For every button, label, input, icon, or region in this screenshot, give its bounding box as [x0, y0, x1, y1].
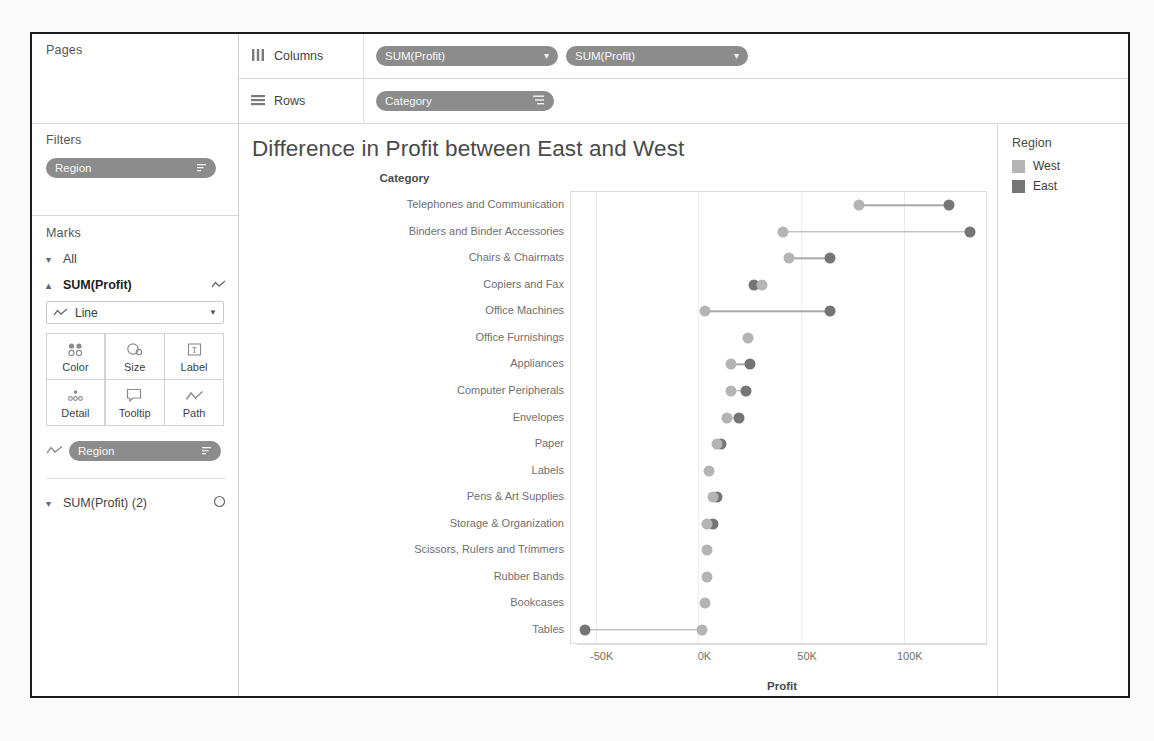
chevron-down-icon[interactable]: ▾	[46, 254, 56, 265]
path-button[interactable]: Path	[164, 379, 224, 426]
svg-text:T: T	[192, 346, 197, 355]
tooltip-button-label: Tooltip	[119, 407, 151, 419]
marks-card2-header[interactable]: ▾ SUM(Profit) (2)	[46, 495, 226, 511]
label-button[interactable]: T Label	[164, 333, 224, 380]
rows-label: Rows	[274, 94, 305, 108]
legend-item[interactable]: East	[1012, 179, 1128, 193]
data-point-east[interactable]	[734, 412, 745, 423]
category-label: Scissors, Rulers and Trimmers	[414, 542, 564, 556]
data-point-east[interactable]	[964, 226, 975, 237]
x-axis-title: Profit	[577, 680, 987, 692]
chevron-up-icon[interactable]: ▴	[46, 280, 56, 291]
data-point-west[interactable]	[853, 200, 864, 211]
mark-type-dropdown[interactable]: Line ▼	[46, 301, 224, 324]
marks-card1-header[interactable]: ▴ SUM(Profit)	[46, 278, 226, 292]
plot-frame: Telephones and CommunicationBinders and …	[232, 191, 987, 644]
detail-icon	[66, 386, 85, 405]
line-icon	[53, 306, 68, 320]
tooltip-button[interactable]: Tooltip	[105, 379, 165, 426]
plot-panel[interactable]	[570, 191, 987, 644]
marks-card1-label: SUM(Profit)	[63, 278, 132, 292]
filter-menu-icon[interactable]	[196, 163, 207, 174]
data-point-west[interactable]	[701, 545, 712, 556]
legend-items: WestEast	[1012, 159, 1128, 193]
pill-dropdown-icon[interactable]: ▾	[544, 51, 549, 61]
data-point-west[interactable]	[699, 306, 710, 317]
data-point-east[interactable]	[824, 306, 835, 317]
rows-shelf[interactable]: Rows Category	[239, 79, 1128, 124]
data-point-west[interactable]	[707, 492, 718, 503]
rows-pill-1[interactable]: Category	[376, 91, 554, 111]
sort-icon[interactable]	[533, 95, 545, 107]
detail-button[interactable]: Detail	[46, 379, 106, 426]
data-point-west[interactable]	[722, 412, 733, 423]
worksheet-viz: Difference in Profit between East and We…	[239, 124, 998, 696]
category-label: Computer Peripherals	[457, 383, 564, 397]
connector-line	[585, 629, 702, 630]
columns-pill-2[interactable]: SUM(Profit) ▾	[566, 46, 748, 66]
data-point-west[interactable]	[757, 279, 768, 290]
chevron-down-icon[interactable]: ▾	[46, 498, 56, 509]
size-button[interactable]: Size	[105, 333, 165, 380]
data-point-west[interactable]	[726, 385, 737, 396]
columns-pill-1[interactable]: SUM(Profit) ▾	[376, 46, 558, 66]
data-point-east[interactable]	[740, 385, 751, 396]
data-point-east[interactable]	[580, 624, 591, 635]
filter-pill-region[interactable]: Region	[46, 158, 216, 178]
mark-type-value: Line	[75, 306, 98, 320]
data-point-west[interactable]	[699, 598, 710, 609]
data-point-west[interactable]	[783, 253, 794, 264]
marks-pill-region[interactable]: Region	[69, 441, 221, 461]
data-point-west[interactable]	[701, 571, 712, 582]
pill-menu-icon[interactable]	[201, 446, 212, 457]
pages-label: Pages	[46, 43, 226, 57]
chevron-down-icon[interactable]: ▼	[209, 308, 217, 317]
columns-label: Columns	[274, 49, 323, 63]
data-point-west[interactable]	[726, 359, 737, 370]
worksheet-column: Columns SUM(Profit) ▾ SUM(Profit) ▾ Rows	[239, 34, 1128, 696]
data-point-west[interactable]	[742, 332, 753, 343]
legend-swatch	[1012, 180, 1025, 193]
gridline	[596, 192, 597, 643]
legend-item[interactable]: West	[1012, 159, 1128, 173]
category-label: Bookcases	[510, 595, 564, 609]
line-mark-icon	[211, 278, 226, 292]
category-label: Appliances	[510, 356, 564, 370]
columns-shelf[interactable]: Columns SUM(Profit) ▾ SUM(Profit) ▾	[239, 34, 1128, 79]
x-axis[interactable]: -50K0K50K100K	[577, 644, 987, 678]
pill-dropdown-icon[interactable]: ▾	[734, 51, 739, 61]
marks-buttons-grid: Color Size T	[46, 333, 224, 426]
marks-card: Marks ▾ All ▴ SUM(Profit) Line ▼	[32, 216, 238, 696]
columns-icon	[251, 49, 265, 64]
marks-all-label: All	[63, 252, 77, 266]
data-point-west[interactable]	[697, 624, 708, 635]
category-label: Copiers and Fax	[483, 277, 564, 291]
x-tick-label: 100K	[897, 650, 923, 662]
filters-shelf[interactable]: Filters Region	[32, 124, 238, 216]
row-field-header-label: Category	[239, 172, 987, 184]
marks-all-row[interactable]: ▾ All	[46, 252, 226, 266]
data-point-west[interactable]	[701, 518, 712, 529]
category-label: Pens & Art Supplies	[467, 489, 564, 503]
data-point-east[interactable]	[824, 253, 835, 264]
color-button-label: Color	[62, 361, 88, 373]
data-point-west[interactable]	[711, 439, 722, 450]
connector-line	[859, 205, 949, 206]
gridline	[698, 192, 699, 643]
connector-line	[783, 231, 970, 232]
rows-dropzone[interactable]: Category	[363, 79, 1118, 123]
data-point-east[interactable]	[944, 200, 955, 211]
label-icon: T	[187, 340, 202, 359]
pages-shelf[interactable]: Pages	[32, 34, 238, 124]
color-button[interactable]: Color	[46, 333, 106, 380]
columns-dropzone[interactable]: SUM(Profit) ▾ SUM(Profit) ▾	[363, 34, 1118, 78]
data-point-west[interactable]	[777, 226, 788, 237]
data-point-east[interactable]	[744, 359, 755, 370]
data-point-west[interactable]	[703, 465, 714, 476]
label-button-label: Label	[181, 361, 208, 373]
category-label: Chairs & Chairmats	[469, 250, 564, 264]
size-button-label: Size	[124, 361, 145, 373]
category-label: Labels	[532, 463, 564, 477]
x-tick-label: -50K	[590, 650, 613, 662]
marks-encoding-row: Region	[46, 441, 226, 461]
